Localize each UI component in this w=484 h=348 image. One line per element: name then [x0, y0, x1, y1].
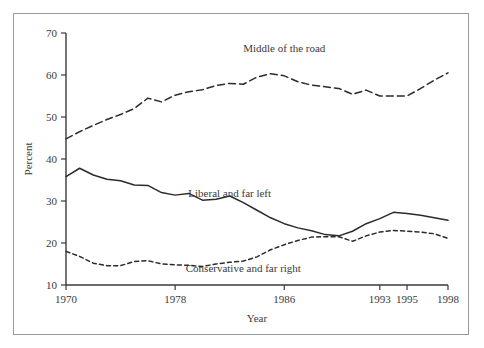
series-line-0 — [66, 73, 448, 139]
series-label-1: Liberal and far left — [188, 187, 271, 199]
series-line-1 — [66, 168, 448, 236]
series-label-0: Middle of the road — [243, 42, 326, 54]
y-tick-label: 60 — [46, 69, 58, 81]
x-tick-label: 1986 — [273, 293, 296, 305]
x-tick-label: 1995 — [396, 293, 419, 305]
x-tick-label: 1978 — [164, 293, 187, 305]
y-axis-title: Percent — [22, 143, 34, 176]
series-line-2 — [66, 230, 448, 266]
series-label-2: Conservative and far right — [186, 262, 301, 274]
y-tick-label: 40 — [46, 153, 58, 165]
y-tick-label: 30 — [46, 195, 58, 207]
x-tick-label: 1970 — [55, 293, 78, 305]
line-chart: 10203040506070197019781986199319951998Ye… — [0, 0, 484, 348]
x-tick-label: 1998 — [437, 293, 460, 305]
x-axis-title: Year — [247, 312, 268, 324]
y-tick-label: 10 — [46, 279, 58, 291]
y-tick-label: 20 — [46, 237, 58, 249]
x-tick-label: 1993 — [369, 293, 392, 305]
y-tick-label: 70 — [46, 27, 58, 39]
y-tick-label: 50 — [46, 111, 58, 123]
